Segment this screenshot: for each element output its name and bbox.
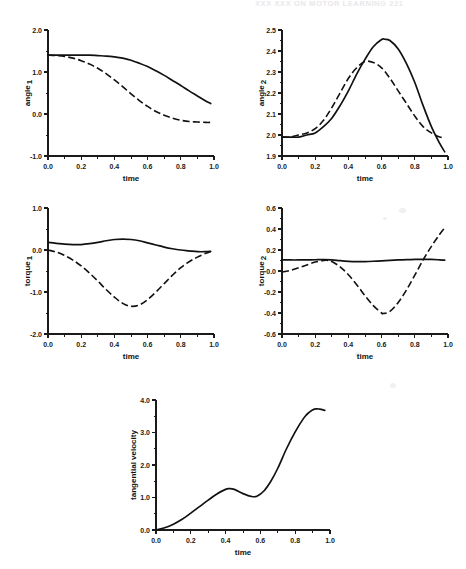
- panel-tangential-velocity-xtick-label: 0.6: [256, 537, 266, 544]
- panel-torque-1-curves: [48, 239, 211, 306]
- panel-angle-2-curves: [282, 39, 445, 152]
- panel-angle-1-ylabel: angle1: [23, 79, 34, 106]
- panel-angle-1-xlabel: time: [123, 174, 140, 183]
- panel-angle-2: 1.92.02.12.22.32.42.50.00.20.40.60.81.0t…: [234, 18, 466, 183]
- panel-angle-2-xtick-label: 0.4: [344, 163, 354, 170]
- panel-angle-1-xtick-label: 0.6: [143, 163, 153, 170]
- panel-angle-2-series-solid: [282, 39, 445, 152]
- panel-torque-2-ylabel-subscript: 2: [259, 255, 268, 260]
- panel-angle-1-series-solid: [48, 55, 211, 103]
- panel-torque-2-curves: [282, 228, 445, 314]
- panel-angle-2-ylabel-subscript: 2: [259, 79, 268, 84]
- panel-torque-1-ytick-label: 1.0: [32, 205, 42, 212]
- panel-torque-1-svg: -2.0-1.00.01.00.00.20.40.60.81.0timetorq…: [0, 196, 232, 361]
- panel-angle-1: -1.00.01.02.00.00.20.40.60.81.0timeangle…: [0, 18, 232, 183]
- panel-torque-1-xtick-label: 0.4: [110, 341, 120, 348]
- panel-torque-2-ytick-label: -0.2: [264, 289, 276, 296]
- running-head: XXX XXX ON MOTOR LEARNING 221: [255, 0, 466, 8]
- panel-tangential-velocity-axis-spine: [156, 400, 330, 530]
- panel-angle-2-ytick-label: 1.9: [266, 153, 276, 160]
- panel-angle-2-svg: 1.92.02.12.22.32.42.50.00.20.40.60.81.0t…: [234, 18, 466, 183]
- panel-tangential-velocity: 0.01.02.03.04.00.00.20.40.60.81.0timetan…: [104, 388, 364, 563]
- panel-torque-1-ytick-label: 0.0: [32, 247, 42, 254]
- panel-torque-2-xtick-label: 1.0: [443, 341, 453, 348]
- panel-tangential-velocity-xtick-label: 1.0: [325, 537, 335, 544]
- panel-angle-1-ytick-label: 2.0: [32, 27, 42, 34]
- panel-tangential-velocity-ytick-label: 1.0: [140, 494, 150, 501]
- panel-torque-1-xtick-label: 0.2: [76, 341, 86, 348]
- panel-torque-2-ytick-label: 0.4: [266, 226, 276, 233]
- scan-speck: [390, 383, 396, 388]
- panel-tangential-velocity-series-solid: [156, 409, 325, 530]
- panel-torque-1-ytick-label: -2.0: [30, 331, 42, 338]
- panel-angle-1-ytick-label: 0.0: [32, 111, 42, 118]
- panel-angle-1-ytick-label: -1.0: [30, 153, 42, 160]
- panel-angle-2-ytick-label: 2.4: [266, 48, 276, 55]
- panel-tangential-velocity-xtick-label: 0.2: [186, 537, 196, 544]
- panel-angle-1-curves: [48, 55, 211, 122]
- panel-torque-2-ytick-label: -0.6: [264, 331, 276, 338]
- panel-tangential-velocity-xtick-label: 0.8: [290, 537, 300, 544]
- panel-torque-2-svg: -0.6-0.4-0.20.00.20.40.60.00.20.40.60.81…: [234, 196, 466, 361]
- panel-angle-1-xtick-label: 0.0: [43, 163, 53, 170]
- panel-torque-2-series-dashed: [282, 228, 445, 314]
- panel-tangential-velocity-xlabel: time: [235, 548, 252, 557]
- panel-angle-1-xtick-label: 0.8: [176, 163, 186, 170]
- panel-tangential-velocity-ytick-label: 4.0: [140, 397, 150, 404]
- panel-tangential-velocity-ytick-label: 3.0: [140, 429, 150, 436]
- panel-torque-1-axis-spine: [48, 208, 214, 334]
- panel-torque-2-xtick-label: 0.6: [377, 341, 387, 348]
- panel-angle-1-xtick-label: 0.4: [110, 163, 120, 170]
- panel-torque-1: -2.0-1.00.01.00.00.20.40.60.81.0timetorq…: [0, 196, 232, 361]
- panel-torque-2-ytick-label: 0.0: [266, 268, 276, 275]
- panel-tangential-velocity-ytick-label: 0.0: [140, 527, 150, 534]
- panel-angle-2-xtick-label: 0.2: [310, 163, 320, 170]
- panel-tangential-velocity-ytick-label: 2.0: [140, 462, 150, 469]
- panel-tangential-velocity-ylabel: tangential velocity: [129, 430, 138, 500]
- panel-torque-1-xtick-label: 0.8: [176, 341, 186, 348]
- panel-angle-1-ytick-label: 1.0: [32, 69, 42, 76]
- panel-torque-2-ytick-label: 0.6: [266, 205, 276, 212]
- panel-torque-2-ytick-label: -0.4: [264, 310, 276, 317]
- panel-torque-1-ylabel: torque1: [23, 255, 34, 286]
- panel-angle-2-xlabel: time: [357, 174, 374, 183]
- panel-angle-2-xtick-label: 0.6: [377, 163, 387, 170]
- panel-angle-2-xtick-label: 0.8: [410, 163, 420, 170]
- panel-tangential-velocity-xtick-label: 0.4: [221, 537, 231, 544]
- panel-angle-1-ylabel-subscript: 1: [25, 79, 34, 84]
- panel-tangential-velocity-xtick-label: 0.0: [151, 537, 161, 544]
- panel-angle-2-xtick-label: 1.0: [443, 163, 453, 170]
- panel-tangential-velocity-svg: 0.01.02.03.04.00.00.20.40.60.81.0timetan…: [104, 388, 364, 563]
- panel-torque-1-xlabel: time: [123, 352, 140, 361]
- panel-torque-2-xlabel: time: [357, 352, 374, 361]
- panel-angle-2-ytick-label: 2.1: [266, 111, 276, 118]
- panel-torque-2: -0.6-0.4-0.20.00.20.40.60.00.20.40.60.81…: [234, 196, 466, 361]
- panel-torque-2-xtick-label: 0.2: [310, 341, 320, 348]
- figure-page: XXX XXX ON MOTOR LEARNING 221 -1.00.01.0…: [0, 0, 466, 569]
- panel-angle-2-ytick-label: 2.5: [266, 27, 276, 34]
- panel-torque-2-xtick-label: 0.8: [410, 341, 420, 348]
- panel-torque-2-xtick-label: 0.4: [344, 341, 354, 348]
- panel-angle-1-svg: -1.00.01.02.00.00.20.40.60.81.0timeangle…: [0, 18, 232, 183]
- panel-angle-2-ytick-label: 2.0: [266, 132, 276, 139]
- panel-angle-2-axis-spine: [282, 30, 448, 156]
- panel-angle-2-ytick-label: 2.2: [266, 90, 276, 97]
- panel-torque-1-series-dashed: [48, 250, 211, 306]
- panel-torque-1-xtick-label: 0.6: [143, 341, 153, 348]
- panel-torque-2-ytick-label: 0.2: [266, 247, 276, 254]
- panel-torque-2-series-solid: [282, 259, 445, 261]
- panel-torque-2-xtick-label: 0.0: [277, 341, 287, 348]
- panel-torque-2-axis-spine: [282, 208, 448, 334]
- panel-tangential-velocity-curves: [156, 409, 325, 530]
- panel-torque-1-xtick-label: 1.0: [209, 341, 219, 348]
- panel-angle-1-xtick-label: 1.0: [209, 163, 219, 170]
- panel-torque-1-ylabel-subscript: 1: [25, 255, 34, 260]
- panel-angle-1-xtick-label: 0.2: [76, 163, 86, 170]
- panel-torque-1-series-solid: [48, 239, 211, 252]
- panel-torque-1-xtick-label: 0.0: [43, 341, 53, 348]
- panel-torque-1-ytick-label: -1.0: [30, 289, 42, 296]
- panel-angle-2-ytick-label: 2.3: [266, 69, 276, 76]
- panel-angle-2-xtick-label: 0.0: [277, 163, 287, 170]
